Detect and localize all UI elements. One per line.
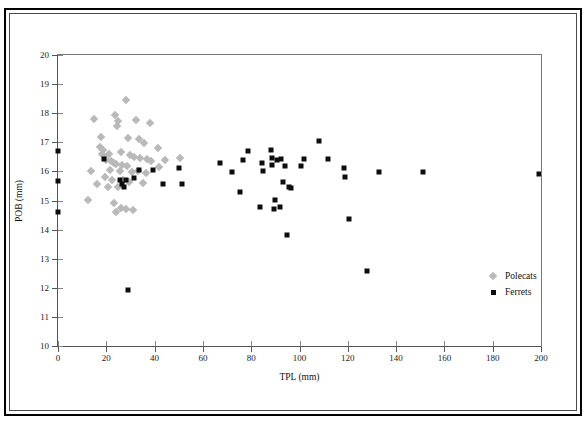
x-axis-tick	[493, 346, 494, 352]
y-axis-tick-inner	[58, 201, 63, 202]
y-axis-tick-label: 17	[40, 137, 49, 147]
x-axis-tick-label: 180	[486, 353, 500, 363]
data-point-ferrets	[257, 204, 262, 209]
data-point-ferrets	[274, 158, 279, 163]
data-point-polecats	[113, 122, 121, 130]
chart-legend: Polecats Ferrets	[486, 268, 537, 300]
x-axis-tick-label: 160	[438, 353, 452, 363]
data-point-polecats	[119, 176, 127, 184]
data-point-ferrets	[285, 232, 290, 237]
y-axis-tick-label: 14	[40, 225, 49, 235]
y-axis-tick-label: 18	[40, 108, 49, 118]
data-point-polecats	[90, 115, 98, 123]
data-point-ferrets	[240, 157, 245, 162]
data-point-polecats	[100, 152, 108, 160]
data-point-polecats	[139, 139, 147, 147]
y-axis-tick-label: 20	[40, 50, 49, 60]
data-point-ferrets	[136, 167, 141, 172]
x-axis-tick-inner	[155, 341, 156, 346]
data-point-ferrets	[326, 157, 331, 162]
legend-item-polecats[interactable]: Polecats	[486, 268, 537, 284]
data-point-polecats	[114, 117, 122, 125]
x-axis-tick	[106, 346, 107, 352]
data-point-polecats	[109, 199, 117, 207]
x-axis-tick-label: 20	[102, 353, 111, 363]
legend-label-polecats: Polecats	[505, 271, 537, 281]
data-point-ferrets	[56, 209, 61, 214]
diamond-icon	[489, 272, 497, 280]
y-axis-tick-inner	[58, 84, 63, 85]
data-point-polecats	[123, 162, 131, 170]
y-axis-tick-inner	[58, 230, 63, 231]
data-point-polecats	[146, 119, 154, 127]
x-axis-title: TPL (mm)	[57, 372, 542, 382]
x-axis-tick-inner	[300, 341, 301, 346]
data-point-polecats	[112, 207, 120, 215]
y-axis-title: POB (mm)	[12, 54, 26, 347]
data-point-ferrets	[126, 288, 131, 293]
data-point-polecats	[96, 142, 104, 150]
data-point-ferrets	[279, 157, 284, 162]
data-point-polecats	[111, 110, 119, 118]
data-point-polecats	[127, 168, 135, 176]
x-axis-tick	[396, 346, 397, 352]
data-point-ferrets	[365, 268, 370, 273]
x-axis-tick-inner	[541, 341, 542, 346]
x-axis-tick-inner	[493, 341, 494, 346]
y-axis-tick-inner	[58, 259, 63, 260]
x-axis-tick-inner	[444, 341, 445, 346]
legend-marker-wrap-ferrets	[486, 290, 500, 295]
data-point-ferrets	[132, 175, 137, 180]
y-axis-tick-label: 12	[40, 283, 49, 293]
x-axis-tick-label: 120	[341, 353, 355, 363]
data-point-polecats	[125, 178, 133, 186]
data-point-polecats	[112, 160, 120, 168]
data-point-ferrets	[269, 162, 274, 167]
data-point-polecats	[104, 150, 112, 158]
data-point-polecats	[98, 145, 106, 153]
data-point-ferrets	[342, 165, 347, 170]
data-point-ferrets	[56, 178, 61, 183]
y-axis-tick-label: 13	[40, 254, 49, 264]
data-point-polecats	[118, 161, 126, 169]
data-point-polecats	[135, 135, 143, 143]
data-point-ferrets	[101, 157, 106, 162]
legend-marker-wrap-polecats	[486, 273, 500, 279]
data-point-ferrets	[229, 169, 234, 174]
data-point-ferrets	[536, 171, 541, 176]
data-point-ferrets	[268, 148, 273, 153]
x-axis-tick	[155, 346, 156, 352]
x-axis-tick-inner	[58, 341, 59, 346]
square-icon	[491, 290, 496, 295]
data-point-polecats	[126, 151, 134, 159]
data-point-polecats	[106, 166, 114, 174]
y-axis-tick-label: 16	[40, 166, 49, 176]
y-axis-tick-inner	[58, 55, 63, 56]
x-axis-tick-inner	[203, 341, 204, 346]
x-axis-tick	[541, 346, 542, 352]
data-point-ferrets	[117, 177, 122, 182]
data-point-polecats	[138, 179, 146, 187]
data-point-ferrets	[280, 179, 285, 184]
data-point-polecats	[101, 173, 109, 181]
data-point-polecats	[132, 116, 140, 124]
x-axis-tick	[203, 346, 204, 352]
data-point-ferrets	[151, 167, 156, 172]
data-point-ferrets	[283, 163, 288, 168]
legend-item-ferrets[interactable]: Ferrets	[486, 284, 537, 300]
x-axis-tick	[58, 346, 59, 352]
data-point-polecats	[161, 156, 169, 164]
data-point-polecats	[154, 144, 162, 152]
scatter-plot-area: 1011121314151617181920020406080100120140…	[57, 54, 542, 347]
y-axis-tick-inner	[58, 171, 63, 172]
x-axis-tick	[251, 346, 252, 352]
x-axis-tick-label: 0	[56, 353, 61, 363]
data-point-ferrets	[343, 174, 348, 179]
data-point-polecats	[124, 134, 132, 142]
data-point-ferrets	[273, 197, 278, 202]
data-point-polecats	[136, 154, 144, 162]
data-point-ferrets	[269, 156, 274, 161]
data-point-polecats	[102, 156, 110, 164]
y-axis-tick-label: 10	[40, 341, 49, 351]
data-point-ferrets	[161, 182, 166, 187]
